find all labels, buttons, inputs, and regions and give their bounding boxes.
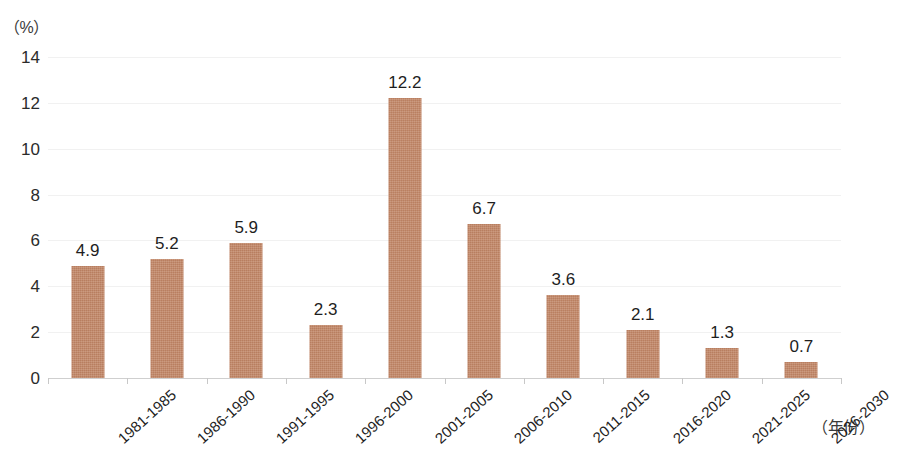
x-axis-tick bbox=[841, 378, 842, 384]
y-axis-tick-label: 4 bbox=[0, 278, 40, 295]
x-axis-tick-label: 1991-1995 bbox=[273, 386, 338, 447]
bar-slot: 12.2 bbox=[365, 57, 444, 378]
x-axis-tick-label: 2006-2010 bbox=[511, 386, 576, 447]
bar[interactable] bbox=[785, 362, 818, 378]
bar-value-label: 0.7 bbox=[790, 338, 814, 355]
x-axis-tick-label: 2016-2020 bbox=[669, 386, 734, 447]
plot-area: 4.95.25.92.312.26.73.62.11.30.7 bbox=[48, 57, 841, 378]
x-axis-tick-labels: 1981-19851986-19901991-19951996-20002001… bbox=[48, 378, 841, 467]
bar-slot: 2.3 bbox=[286, 57, 365, 378]
y-axis-tick-label: 6 bbox=[0, 232, 40, 249]
bar[interactable] bbox=[150, 259, 183, 378]
bar[interactable] bbox=[706, 348, 739, 378]
y-axis-tick-label: 0 bbox=[0, 370, 40, 387]
x-axis-tick-label: 2021-2025 bbox=[748, 386, 813, 447]
y-axis-tick-label: 2 bbox=[0, 324, 40, 341]
y-axis-unit-label: （%） bbox=[4, 14, 49, 38]
bar[interactable] bbox=[309, 325, 342, 378]
bar-value-label: 2.1 bbox=[631, 306, 655, 323]
bar[interactable] bbox=[468, 224, 501, 378]
bar-slot: 6.7 bbox=[445, 57, 524, 378]
bar-slot: 4.9 bbox=[48, 57, 127, 378]
bar-value-label: 5.2 bbox=[155, 235, 179, 252]
bar-value-label: 3.6 bbox=[552, 271, 576, 288]
y-axis-tick-label: 12 bbox=[0, 94, 40, 111]
x-axis-tick-label: 1981-1985 bbox=[114, 386, 179, 447]
bar-value-label: 6.7 bbox=[472, 200, 496, 217]
x-axis-tick-label: 2001-2005 bbox=[431, 386, 496, 447]
bar-chart: （%） （年份） 02468101214 4.95.25.92.312.26.7… bbox=[0, 0, 899, 467]
y-axis-tick-label: 10 bbox=[0, 140, 40, 157]
bar[interactable] bbox=[388, 98, 421, 378]
x-axis-tick-label: 2011-2015 bbox=[590, 386, 654, 446]
x-axis-tick-label: 1996-2000 bbox=[352, 386, 417, 447]
bar-slot: 0.7 bbox=[762, 57, 841, 378]
y-axis-tick-labels: 02468101214 bbox=[0, 57, 40, 378]
bar[interactable] bbox=[547, 295, 580, 378]
bar-value-label: 4.9 bbox=[76, 242, 100, 259]
x-axis-tick-label: 1986-1990 bbox=[193, 386, 258, 447]
bar-slot: 2.1 bbox=[603, 57, 682, 378]
y-axis-tick-label: 14 bbox=[0, 49, 40, 66]
bar-value-label: 5.9 bbox=[234, 219, 258, 236]
bar-value-label: 1.3 bbox=[710, 324, 734, 341]
bar-slot: 5.9 bbox=[207, 57, 286, 378]
bar-slot: 5.2 bbox=[127, 57, 206, 378]
bar-slot: 1.3 bbox=[682, 57, 761, 378]
bar[interactable] bbox=[626, 330, 659, 378]
bar-value-label: 12.2 bbox=[388, 74, 421, 91]
bar-slot: 3.6 bbox=[524, 57, 603, 378]
bar-value-label: 2.3 bbox=[314, 301, 338, 318]
bar[interactable] bbox=[71, 266, 104, 378]
y-axis-tick-label: 8 bbox=[0, 186, 40, 203]
bar[interactable] bbox=[230, 243, 263, 378]
